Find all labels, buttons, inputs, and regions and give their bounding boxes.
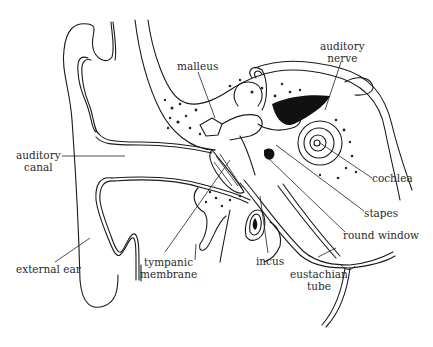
label-eustachian-tube-line2: tube xyxy=(290,280,348,292)
label-external-ear: external ear xyxy=(16,263,81,275)
label-stapes: stapes xyxy=(364,207,398,219)
tympanic-membrane-shape xyxy=(210,150,244,193)
label-incus: incus xyxy=(256,255,284,267)
label-auditory-nerve-line2: nerve xyxy=(320,52,365,64)
eustachian-tube-shape xyxy=(240,180,395,327)
label-malleus: malleus xyxy=(177,60,218,72)
ear-anatomy-drawing xyxy=(0,0,433,347)
label-tympanic-membrane-line2: membrane xyxy=(140,268,197,280)
label-tympanic-membrane-line1: tympanic xyxy=(140,256,197,268)
label-eustachian-tube-line1: eustachian xyxy=(290,268,348,280)
label-auditory-canal-line1: auditory xyxy=(16,149,61,161)
label-auditory-nerve-line1: auditory xyxy=(320,40,365,52)
label-tympanic-membrane: tympanic membrane xyxy=(140,256,197,280)
label-auditory-canal-line2: canal xyxy=(16,161,61,173)
label-eustachian-tube: eustachian tube xyxy=(290,268,348,292)
label-cochlea: cochlea xyxy=(372,172,413,184)
label-auditory-canal: auditory canal xyxy=(16,149,61,173)
label-round-window: round window xyxy=(343,229,419,241)
leader-lines xyxy=(55,62,372,262)
semicircular-canals xyxy=(234,68,330,125)
label-auditory-nerve: auditory nerve xyxy=(320,40,365,64)
temporal-bone-shape xyxy=(135,20,412,200)
